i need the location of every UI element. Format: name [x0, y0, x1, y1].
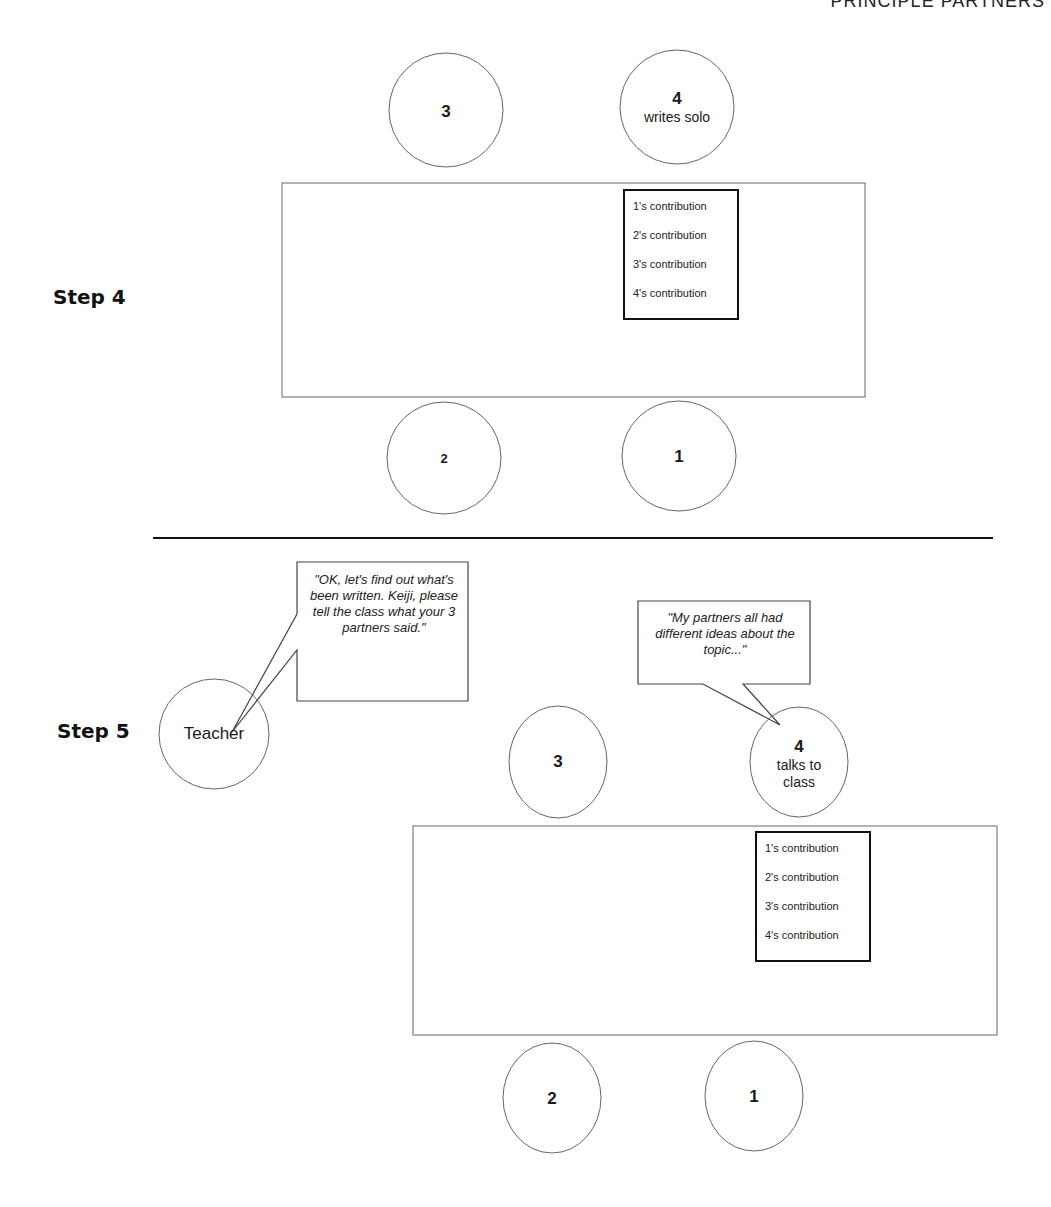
seat-number: 2 — [440, 451, 447, 467]
seat-role: writes solo — [644, 110, 710, 127]
contribution-line: 2's contribution — [633, 226, 737, 255]
teacher-label: Teacher — [184, 724, 244, 744]
seat-number: 3 — [553, 752, 562, 772]
step5-table — [413, 826, 997, 1035]
contribution-line: 4's contribution — [765, 926, 869, 955]
diagram-canvas — [0, 0, 1051, 1207]
step5-seat-3: 3 — [553, 752, 562, 772]
seat-number: 4 — [764, 737, 834, 757]
step5-seat-1: 1 — [749, 1087, 758, 1107]
step4-seat-1: 1 — [674, 447, 683, 467]
step5-seat-2: 2 — [547, 1089, 556, 1109]
step5-contribution-sheet: 1's contribution 2's contribution 3's co… — [755, 831, 871, 962]
step4-seat-2: 2 — [440, 451, 447, 467]
contribution-line: 1's contribution — [633, 197, 737, 226]
step5-diagram — [159, 562, 997, 1153]
step5-label: Step 5 — [57, 719, 130, 743]
step4-label: Step 4 — [53, 285, 126, 309]
contribution-line: 1's contribution — [765, 839, 869, 868]
seat-number: 1 — [749, 1087, 758, 1107]
student-speech-text: "My partners all had different ideas abo… — [646, 610, 804, 658]
contribution-line: 4's contribution — [633, 284, 737, 313]
contribution-line: 2's contribution — [765, 868, 869, 897]
seat-number: 1 — [674, 447, 683, 467]
step5-seat-4: 4 talks to class — [764, 737, 834, 791]
step4-diagram — [282, 50, 865, 514]
seat-role: talks to class — [764, 757, 834, 791]
contribution-line: 3's contribution — [633, 255, 737, 284]
seat-number: 3 — [441, 102, 450, 122]
seat-number: 4 — [644, 89, 710, 109]
step4-table — [282, 183, 865, 397]
step4-contribution-sheet: 1's contribution 2's contribution 3's co… — [623, 189, 739, 320]
teacher-speech-text: "OK, let's find out what's been written.… — [304, 572, 464, 636]
step4-seat-3: 3 — [441, 102, 450, 122]
step4-seat-4: 4 writes solo — [644, 89, 710, 126]
contribution-line: 3's contribution — [765, 897, 869, 926]
seat-number: 2 — [547, 1089, 556, 1109]
